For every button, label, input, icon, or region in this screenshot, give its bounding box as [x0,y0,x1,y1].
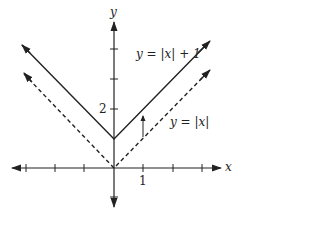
series-label-abs-x: y = |x| [170,116,209,128]
y-axis [110,22,118,207]
y-tick-label-2: 2 [99,103,107,115]
series-label-abs-x-plus-1: y = |x| + 1 [136,48,201,60]
x-axis-label: x [225,161,232,173]
x-tick-label-1: 1 [139,175,147,187]
y-axis-label: y [110,6,117,18]
